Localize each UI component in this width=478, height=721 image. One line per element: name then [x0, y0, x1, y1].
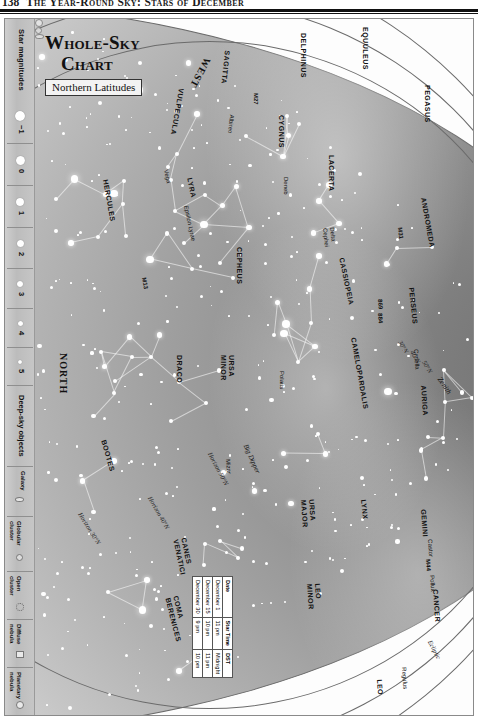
star — [312, 344, 318, 350]
star — [87, 279, 89, 281]
star — [44, 558, 46, 560]
star — [150, 403, 152, 405]
star-label-castor: Castor — [427, 539, 434, 557]
table-row: December 30 9 pm 10 pm — [193, 577, 203, 678]
magnitude-dot-3 — [17, 281, 23, 287]
star — [267, 324, 269, 326]
constellation-leo: LEO — [376, 679, 384, 695]
star — [98, 174, 100, 176]
star — [89, 567, 91, 569]
star — [225, 551, 228, 554]
legend-diffuse-nebula-label: Diffusenebula — [8, 624, 22, 644]
star — [37, 344, 41, 348]
star — [395, 246, 399, 250]
star — [194, 111, 200, 117]
cell-star-time-2: 10 pm — [203, 617, 213, 649]
star — [70, 282, 72, 284]
star — [276, 149, 278, 151]
star — [281, 451, 287, 457]
planetary-nebula-icon — [16, 701, 24, 709]
diffuse-nebula-icon — [16, 651, 24, 658]
magnitude-label-1: 1 — [17, 211, 26, 215]
star — [54, 229, 58, 233]
star — [311, 230, 317, 236]
star — [227, 107, 229, 109]
star — [42, 369, 45, 372]
star — [154, 463, 156, 465]
star — [368, 543, 370, 545]
magnitude-label--1: −1 — [17, 125, 26, 134]
star — [296, 111, 298, 113]
star — [277, 212, 279, 214]
magnitude-label-5: 5 — [17, 369, 26, 373]
star — [332, 559, 334, 561]
star — [252, 488, 258, 494]
magnitude-dot-4 — [18, 321, 23, 326]
star — [144, 577, 150, 583]
star — [62, 132, 65, 135]
legend-star-magnitudes-title: Star magnitudes — [17, 29, 26, 91]
star — [334, 518, 336, 520]
star — [397, 204, 399, 206]
star — [316, 198, 322, 204]
star — [168, 266, 170, 268]
star — [137, 689, 139, 691]
dso-label-m44: M44 — [425, 559, 432, 571]
star — [236, 180, 238, 182]
star — [160, 585, 162, 587]
star — [289, 193, 292, 196]
col-header-star-time: Star Time — [223, 617, 233, 649]
star — [288, 501, 294, 507]
star — [304, 561, 306, 563]
star — [46, 596, 49, 599]
star — [92, 283, 94, 285]
star — [329, 557, 331, 559]
star — [153, 588, 156, 591]
star — [67, 631, 69, 633]
star — [41, 592, 45, 596]
page-number: 138 — [2, 0, 19, 8]
star — [71, 175, 79, 183]
star — [165, 492, 168, 495]
legend-deep-sky-title: Deep-sky objects — [17, 395, 26, 457]
star — [151, 561, 153, 563]
date-time-table: Date Star Time DST December 1 11 pm Midn… — [192, 576, 233, 678]
star — [363, 484, 365, 486]
m27-marker-icon — [35, 19, 43, 27]
star — [139, 498, 141, 500]
star — [93, 287, 96, 290]
star — [197, 254, 200, 257]
star — [103, 616, 105, 618]
chart-subtitle: Northern Latitudes — [45, 79, 142, 96]
globular-cluster-icon — [16, 554, 23, 561]
legend-galaxy-label: Galaxy — [20, 471, 26, 491]
dso-label-884: 884 — [377, 313, 384, 323]
magnitude-dot--1 — [15, 111, 25, 121]
star — [395, 493, 397, 495]
star — [55, 280, 57, 282]
star — [315, 435, 317, 437]
constellation-equuleus: EQUULEUS — [362, 27, 369, 70]
star — [91, 180, 93, 182]
constellation-line — [283, 452, 325, 454]
star — [350, 524, 352, 526]
cell-date-2: December 15 — [203, 577, 213, 618]
header-rule-thick — [0, 9, 478, 12]
magnitude-dot-5 — [18, 360, 22, 364]
star — [268, 217, 270, 219]
constellation-ursa-major: URSAMAJOR — [300, 499, 317, 528]
star — [96, 235, 100, 239]
star — [236, 556, 240, 560]
star — [149, 355, 153, 359]
cell-dst-3: 10 pm — [193, 649, 203, 677]
star — [280, 330, 288, 338]
star — [47, 471, 49, 473]
star — [470, 396, 473, 400]
constellation-ursa-minor: URSAMINOR — [220, 355, 235, 381]
star — [87, 644, 89, 646]
col-header-date: Date — [223, 577, 233, 618]
page-title-line1: Whole-Sky — [45, 33, 142, 53]
table-row: December 15 10 pm 11 pm — [203, 577, 213, 678]
star — [240, 546, 244, 550]
star — [334, 530, 336, 532]
